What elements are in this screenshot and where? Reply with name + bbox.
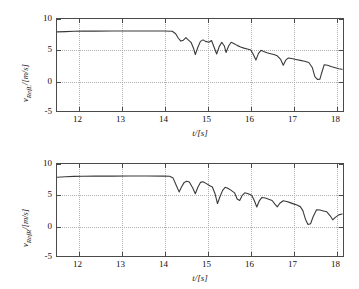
xtick-label-bottom-17: 17 xyxy=(288,259,297,269)
xtick-label-bottom-16: 16 xyxy=(245,259,254,269)
data-line-reference-velocity-left xyxy=(57,19,343,111)
xtick-label-top-15: 15 xyxy=(202,114,211,124)
xtick-label-bottom-12: 12 xyxy=(73,259,82,269)
xtick-label-top-16: 16 xyxy=(245,114,254,124)
xtick-label-top-12: 12 xyxy=(73,114,82,124)
x-axis-title-top-unit: /[s] xyxy=(195,128,208,138)
xtick-label-bottom-14: 14 xyxy=(159,259,168,269)
ytick-label-bottom-0: 0 xyxy=(28,221,52,231)
xtick-label-bottom-13: 13 xyxy=(116,259,125,269)
ytick-label-top-5: 5 xyxy=(28,44,52,54)
xtick-label-bottom-18: 18 xyxy=(331,259,340,269)
xtick-label-top-13: 13 xyxy=(116,114,125,124)
panel-reference-velocity-right: vRefR/[m/s] xyxy=(0,145,359,289)
ytick-label-top-10: 10 xyxy=(28,13,52,23)
x-axis-title-bottom: t/[s] xyxy=(56,273,344,283)
xtick-label-top-18: 18 xyxy=(331,114,340,124)
ytick-label-bottom-m5: -5 xyxy=(28,251,52,261)
y-axis-title-bottom-sub: RefR xyxy=(25,230,33,244)
ytick-label-top-0: 0 xyxy=(28,76,52,86)
y-axis-title-top-sub: RefL xyxy=(25,85,33,98)
panel-reference-velocity-left: vRefL/[m/s] xyxy=(0,0,359,144)
ytick-label-bottom-5: 5 xyxy=(28,189,52,199)
xtick-label-top-14: 14 xyxy=(159,114,168,124)
data-line-reference-velocity-right xyxy=(57,164,343,256)
ytick-label-bottom-10: 10 xyxy=(28,158,52,168)
x-axis-title-top: t/[s] xyxy=(56,128,344,138)
figure-container: vRefL/[m/s] xyxy=(0,0,359,289)
plot-area-bottom xyxy=(56,163,344,257)
xtick-label-top-17: 17 xyxy=(288,114,297,124)
xtick-label-bottom-15: 15 xyxy=(202,259,211,269)
plot-area-top xyxy=(56,18,344,112)
x-axis-title-bottom-unit: /[s] xyxy=(195,273,208,283)
ytick-label-top-m5: -5 xyxy=(28,106,52,116)
